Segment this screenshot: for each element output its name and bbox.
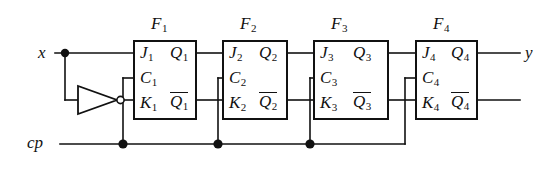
pin-k1: K1	[140, 94, 157, 111]
pin-q1-bar: Q1	[170, 92, 188, 111]
pin-j3: J3	[320, 44, 333, 61]
input-label-x: x	[38, 43, 46, 63]
inverter-symbol	[78, 86, 124, 114]
junction-dot-x	[61, 49, 69, 57]
pin-q3: Q3	[353, 44, 371, 61]
pin-c3: C3	[320, 69, 337, 86]
pin-k4: K4	[422, 94, 439, 111]
ff-title-2: F2	[240, 14, 256, 34]
pin-k3: K3	[320, 94, 337, 111]
ff-title-3: F3	[331, 14, 347, 34]
output-label-y: y	[525, 43, 533, 63]
pin-j1: J1	[140, 44, 153, 61]
pin-q4: Q4	[451, 44, 469, 61]
pin-c4: C4	[422, 69, 439, 86]
junction-dot-cp-1	[118, 139, 127, 148]
junction-dot-cp-3	[305, 139, 314, 148]
pin-q1: Q1	[170, 44, 188, 61]
pin-k2: K2	[229, 94, 246, 111]
pin-c1: C1	[140, 69, 157, 86]
junction-dot-cp-2	[213, 139, 222, 148]
pin-j2: J2	[229, 44, 242, 61]
pin-q2-bar: Q2	[259, 92, 277, 111]
pin-c2: C2	[229, 69, 246, 86]
pin-q4-bar: Q4	[451, 92, 469, 111]
pin-q2: Q2	[259, 44, 277, 61]
pin-j4: J4	[422, 44, 435, 61]
ff-title-1: F1	[151, 14, 167, 34]
clock-label-cp: cp	[27, 133, 43, 153]
circuit-diagram: F1 J1 C1 K1 Q1 Q1 F2 J2 C2 K2 Q2 Q2 F3 J…	[0, 0, 554, 169]
pin-q3-bar: Q3	[353, 92, 371, 111]
ff-title-4: F4	[433, 14, 449, 34]
